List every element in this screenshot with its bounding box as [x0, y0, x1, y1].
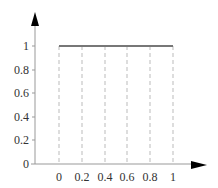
svg-text:0.2: 0.2 [14, 133, 29, 147]
svg-text:0: 0 [23, 157, 29, 171]
svg-text:1: 1 [23, 39, 29, 53]
y-tick-labels: 0 0.2 0.4 0.6 0.8 1 [14, 39, 29, 171]
svg-text:0.2: 0.2 [75, 170, 90, 184]
y-axis-arrow-icon [31, 12, 39, 26]
svg-text:0.6: 0.6 [120, 170, 135, 184]
x-tick-labels: 0 0.2 0.4 0.6 0.8 1 [56, 170, 176, 184]
svg-text:0.6: 0.6 [14, 86, 29, 100]
svg-text:0.4: 0.4 [98, 170, 113, 184]
svg-text:0: 0 [56, 170, 62, 184]
chart: 0 0.2 0.4 0.6 0.8 1 0 0.2 0.4 0.6 0.8 1 [0, 0, 218, 188]
grid-lines [59, 46, 173, 164]
svg-text:0.8: 0.8 [143, 170, 158, 184]
svg-text:1: 1 [170, 170, 176, 184]
x-axis-arrow-icon [191, 161, 207, 169]
svg-text:0.4: 0.4 [14, 110, 29, 124]
svg-text:0.8: 0.8 [14, 63, 29, 77]
